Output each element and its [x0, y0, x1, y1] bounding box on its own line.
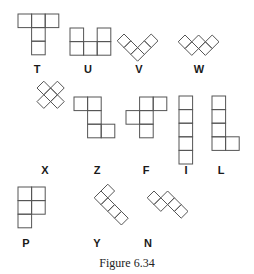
- pentomino-cell: [179, 150, 193, 164]
- pentomino-cell: [108, 205, 122, 219]
- pentomino-t: [18, 14, 59, 55]
- pentomino-cell: [45, 14, 59, 28]
- pentomino-f: [126, 97, 167, 138]
- pentomino-cell: [18, 14, 32, 28]
- pentomino-x: [37, 81, 64, 108]
- pentomino-cell: [115, 211, 129, 225]
- pentomino-cell: [140, 97, 154, 111]
- label-z: Z: [94, 165, 101, 176]
- pentomino-w: [178, 35, 219, 55]
- pentomino-cell: [154, 198, 168, 212]
- pentomino-cell: [94, 191, 108, 205]
- pentomino-figure: [0, 0, 254, 274]
- pentomino-cell: [178, 35, 192, 49]
- pentomino-cell: [51, 81, 65, 95]
- pentomino-cell: [88, 111, 102, 125]
- pentomino-v: [117, 34, 158, 61]
- pentomino-cell: [124, 41, 138, 55]
- pentomino-cell: [179, 96, 193, 110]
- pentomino-cell: [101, 184, 115, 198]
- pentomino-cell: [101, 124, 115, 138]
- pentomino-cell: [44, 88, 58, 102]
- label-n: N: [144, 238, 152, 249]
- label-x: X: [41, 165, 48, 176]
- pentomino-cell: [131, 48, 145, 62]
- pentomino-cell: [226, 137, 240, 151]
- label-w: W: [194, 64, 204, 75]
- pentomino-cell: [51, 95, 65, 109]
- pentomino-cell: [74, 97, 88, 111]
- pentomino-cell: [32, 14, 46, 28]
- pentomino-cell: [32, 28, 46, 42]
- pentomino-cell: [205, 35, 219, 49]
- pentomino-cell: [174, 205, 188, 219]
- pentomino-cell: [212, 123, 226, 137]
- pentomino-cell: [88, 124, 102, 138]
- pentomino-cell: [32, 187, 46, 201]
- pentomino-cell: [161, 191, 175, 205]
- pentomino-cell: [37, 81, 51, 95]
- pentomino-cell: [179, 137, 193, 151]
- pentomino-cell: [199, 42, 213, 56]
- pentomino-cell: [70, 42, 84, 56]
- pentomino-i: [179, 96, 193, 164]
- label-u: U: [84, 64, 92, 75]
- label-l: L: [218, 165, 225, 176]
- pentomino-cell: [37, 95, 51, 109]
- pentomino-cell: [212, 96, 226, 110]
- pentomino-y: [94, 184, 128, 225]
- pentomino-cell: [117, 34, 131, 48]
- pentomino-cell: [185, 42, 199, 56]
- pentomino-cell: [192, 35, 206, 49]
- pentomino-cell: [212, 110, 226, 124]
- label-f: F: [143, 165, 150, 176]
- pentomino-cell: [101, 198, 115, 212]
- label-t: T: [34, 64, 41, 75]
- pentomino-cell: [126, 111, 140, 125]
- figure-caption: Figure 6.34: [0, 256, 254, 271]
- pentomino-cell: [138, 41, 152, 55]
- pentomino-n: [147, 191, 188, 218]
- pentomino-u: [70, 28, 111, 55]
- label-y: Y: [93, 238, 100, 249]
- label-v: V: [135, 64, 142, 75]
- pentomino-cell: [88, 97, 102, 111]
- pentomino-cell: [144, 34, 158, 48]
- pentomino-cell: [32, 41, 46, 55]
- pentomino-p: [18, 187, 45, 228]
- pentomino-z: [74, 97, 115, 138]
- pentomino-cell: [32, 201, 46, 215]
- pentomino-cell: [179, 123, 193, 137]
- pentomino-cell: [140, 124, 154, 138]
- pentomino-cell: [84, 42, 98, 56]
- pentomino-cell: [97, 28, 111, 42]
- pentomino-cell: [18, 187, 32, 201]
- pentomino-cell: [212, 137, 226, 151]
- pentomino-cell: [18, 201, 32, 215]
- label-p: P: [22, 238, 29, 249]
- pentomino-cell: [153, 97, 167, 111]
- pentomino-cell: [97, 42, 111, 56]
- pentomino-cell: [179, 110, 193, 124]
- pentomino-cell: [168, 198, 182, 212]
- pentomino-cell: [140, 111, 154, 125]
- pentomino-cell: [147, 191, 161, 205]
- pentomino-cell: [70, 28, 84, 42]
- label-i: I: [184, 165, 187, 176]
- pentomino-cell: [18, 214, 32, 228]
- pentomino-l: [212, 96, 239, 150]
